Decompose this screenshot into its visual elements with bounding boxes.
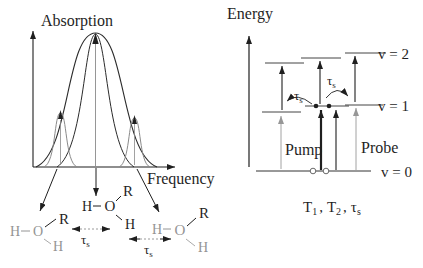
- o-label: O: [105, 198, 116, 214]
- h-donor-label: H: [82, 199, 92, 214]
- energy-axis-label: Energy: [227, 5, 273, 23]
- molecule-middle: H O R H: [82, 183, 135, 232]
- oh-bond: [44, 239, 51, 244]
- v2-label: v = 2: [378, 46, 409, 62]
- exchange-middle-right: τs: [129, 239, 171, 259]
- or-bond: [187, 218, 196, 226]
- o-label: O: [33, 224, 43, 239]
- or-bond: [45, 219, 56, 227]
- r-label: R: [123, 183, 133, 199]
- tau-s-flow-arc-right: [326, 90, 348, 98]
- excited-population-dot: [327, 104, 332, 109]
- excited-population-dot: [314, 104, 319, 109]
- probe-label: Probe: [361, 139, 398, 156]
- tau-s-label: τs: [144, 242, 153, 259]
- molecule-left: H O R H: [10, 211, 69, 254]
- v0-label: v = 0: [381, 164, 412, 180]
- frequency-x-axis-label: Frequency: [147, 170, 215, 188]
- o-label: O: [175, 222, 186, 238]
- h-free-label: H: [53, 239, 63, 254]
- exchange-left-middle: τs: [72, 229, 110, 249]
- r-label: R: [59, 211, 69, 227]
- band-center-arrowhead: [92, 33, 98, 44]
- absorption-y-axis-label: Absorption: [41, 12, 113, 30]
- h-free-label: H: [125, 217, 135, 232]
- molecule-right: H O R H: [152, 205, 209, 255]
- inhomogeneous-band-curve: [36, 33, 157, 167]
- oh-bond: [186, 239, 195, 246]
- or-bond: [116, 196, 121, 201]
- v1-label: v = 1: [378, 98, 409, 114]
- tau-s-flow-label-left: τs: [294, 88, 303, 105]
- h-donor-label: H: [152, 222, 162, 237]
- pump-label: Pump: [285, 141, 322, 159]
- tau-s-flow-label-right: τs: [327, 73, 336, 90]
- absorption-panel: Absorption Frequency: [33, 12, 215, 212]
- caption-relaxation-times: T1,T2,τs: [303, 199, 361, 217]
- ground-hole-circle: [323, 168, 329, 174]
- h-donor-label: H: [10, 224, 20, 239]
- arrow-to-left-molecule: [40, 169, 57, 211]
- h-free-label: H: [198, 240, 208, 255]
- ground-hole-circle: [310, 168, 316, 174]
- tau-s-label: τs: [81, 232, 90, 249]
- spectroscopy-figure: Absorption Frequency H O R H H: [0, 0, 423, 268]
- energy-panel: Energy v = 0 τs τs v = 2 v = 1 Pum: [227, 5, 412, 217]
- r-label: R: [199, 205, 209, 221]
- figure-canvas: Absorption Frequency H O R H H: [0, 0, 423, 268]
- oh-bond: [116, 215, 122, 220]
